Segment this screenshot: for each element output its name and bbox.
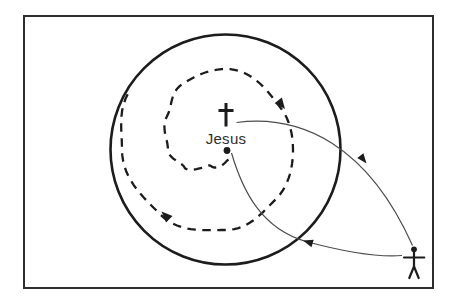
centered-set-diagram: Jesus	[0, 0, 454, 304]
person-legs	[409, 267, 418, 279]
cross-icon	[219, 103, 234, 127]
jesus-label: Jesus	[206, 130, 247, 147]
person-icon	[404, 246, 424, 278]
person-to-center-arrowhead	[302, 237, 314, 247]
diagram-canvas: Jesus	[0, 0, 454, 304]
center-dot	[224, 147, 231, 154]
jesus-to-person-arrowhead	[357, 153, 369, 166]
person-head	[411, 246, 417, 252]
spiral-arrowhead-bottom-left	[158, 208, 172, 222]
spiral-path	[121, 69, 293, 230]
arrow-jesus-to-person	[237, 121, 413, 245]
arrow-person-to-center	[232, 153, 403, 256]
